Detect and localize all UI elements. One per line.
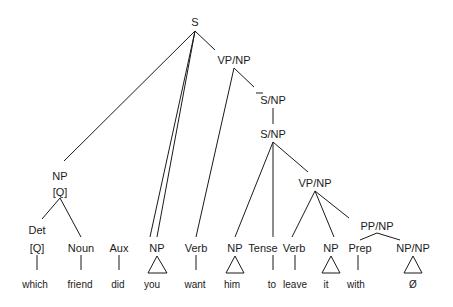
word-him: him <box>224 279 240 290</box>
triangle-np-np <box>404 256 422 273</box>
node-np-it: NP <box>323 242 338 254</box>
node-vp-np-top: VP/NP <box>217 54 250 66</box>
node-det: Det <box>28 224 45 236</box>
node-np-you: NP <box>149 242 164 254</box>
word-with: with <box>346 279 365 290</box>
node-pp-np: PP/NP <box>360 220 393 232</box>
triangle-np-it <box>322 256 340 273</box>
syntax-tree-diagram: S VP/NP S/NP S/NP NP [Q] Det [Q] Noun Au… <box>0 0 453 307</box>
node-np-q: NP <box>52 170 67 182</box>
node-det-feature: [Q] <box>30 242 45 254</box>
triangle-np-him <box>226 256 244 273</box>
node-verb-want: Verb <box>185 242 208 254</box>
node-prep: Prep <box>348 242 371 254</box>
word-want: want <box>183 279 205 290</box>
word-friend: friend <box>67 279 92 290</box>
node-tense: Tense <box>248 242 277 254</box>
node-s-np: S/NP <box>260 128 286 140</box>
node-aux: Aux <box>110 242 129 254</box>
node-np-np: NP/NP <box>396 242 430 254</box>
word-empty: Ø <box>409 279 417 290</box>
word-it: it <box>324 279 329 290</box>
word-leave: leave <box>283 279 307 290</box>
word-which: which <box>21 279 48 290</box>
node-np-him: NP <box>227 242 242 254</box>
node-sbar-np: S/NP <box>260 94 286 106</box>
word-you: you <box>144 279 160 290</box>
node-verb-leave: Verb <box>283 242 306 254</box>
node-vp-np-low: VP/NP <box>298 177 331 189</box>
node-np-q-feature: [Q] <box>53 186 68 198</box>
node-s: S <box>191 16 198 28</box>
triangle-np-you <box>148 256 167 273</box>
word-to: to <box>268 279 277 290</box>
node-noun: Noun <box>68 242 94 254</box>
tree-edges <box>37 31 400 270</box>
word-did: did <box>111 279 124 290</box>
